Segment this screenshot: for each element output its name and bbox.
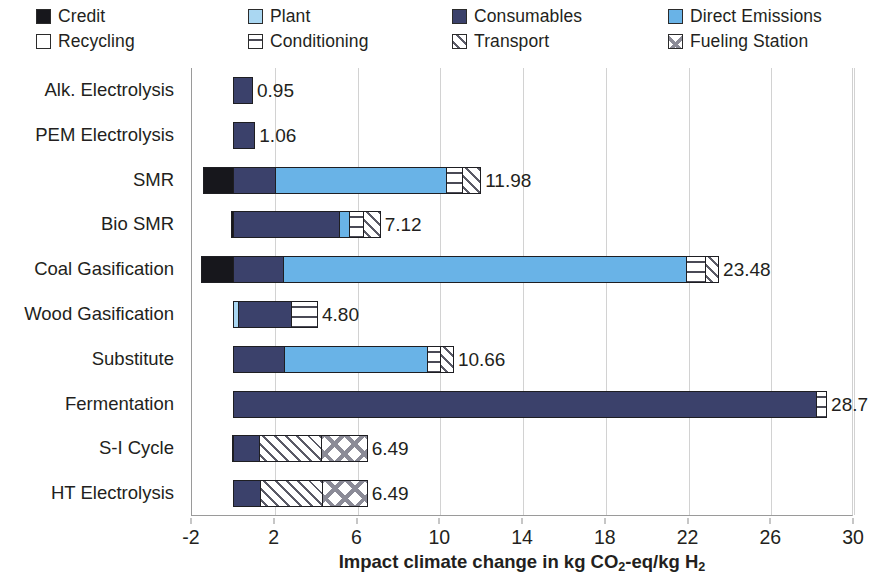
legend-label: Credit — [58, 8, 105, 26]
tick-mark — [273, 518, 274, 524]
tick-mark — [687, 518, 688, 524]
bar-segment-consumables[interactable] — [234, 78, 252, 103]
legend-item-recycling[interactable]: Recycling — [36, 33, 135, 51]
bar-segment-fueling-station[interactable] — [322, 436, 367, 461]
stacked-bar[interactable] — [233, 391, 827, 418]
x-tick-label: 2 — [268, 526, 279, 549]
bar-segment-conditioning[interactable] — [447, 168, 463, 193]
bar-value-label: 0.95 — [253, 77, 294, 104]
category-label: Alk. Electrolysis — [44, 68, 174, 113]
stacked-bar[interactable] — [233, 301, 318, 328]
bar-row: 6.49 — [192, 426, 852, 471]
stacked-bar[interactable] — [231, 211, 381, 238]
tick-mark — [853, 518, 854, 524]
bar-segment-conditioning[interactable] — [687, 257, 706, 282]
category-axis-labels: Alk. ElectrolysisPEM ElectrolysisSMRBio … — [0, 68, 183, 516]
stacked-bar[interactable] — [203, 167, 481, 194]
swatch-fueling-icon — [668, 34, 683, 49]
stacked-bar[interactable] — [233, 122, 255, 149]
category-label: SMR — [133, 158, 174, 203]
category-label: Substitute — [92, 337, 174, 382]
swatch-consumables-icon — [452, 9, 467, 24]
bar-segment-direct-emissions[interactable] — [340, 212, 350, 237]
bar-segment-consumables[interactable] — [234, 123, 254, 148]
x-axis-title-sub-h2: 2 — [698, 560, 705, 574]
bar-segment-transport[interactable] — [441, 347, 453, 372]
legend-label: Consumables — [474, 8, 582, 26]
tick-mark — [356, 518, 357, 524]
swatch-plant-icon — [248, 9, 263, 24]
bar-value-label: 28.7 — [827, 391, 868, 418]
bar-segment-direct-emissions[interactable] — [284, 257, 687, 282]
bar-segment-credit[interactable] — [204, 168, 234, 193]
bar-segment-conditioning[interactable] — [350, 212, 364, 237]
legend-item-plant[interactable]: Plant — [248, 8, 310, 26]
bar-segment-consumables[interactable] — [239, 302, 292, 327]
bar-value-label: 6.49 — [368, 480, 409, 507]
category-label: S-I Cycle — [99, 426, 174, 471]
bar-value-label: 1.06 — [255, 122, 296, 149]
tick-mark — [439, 518, 440, 524]
bar-segment-transport[interactable] — [364, 212, 380, 237]
swatch-transport-icon — [452, 34, 467, 49]
bar-segment-consumables[interactable] — [234, 436, 259, 461]
tick-mark — [522, 518, 523, 524]
x-axis-title-mid: -eq/kg H — [625, 551, 698, 572]
x-tick-label: 18 — [594, 526, 616, 549]
stacked-bar[interactable] — [232, 435, 368, 462]
legend-item-transport[interactable]: Transport — [452, 33, 549, 51]
legend-label: Transport — [474, 33, 549, 51]
bar-segment-transport[interactable] — [261, 481, 323, 506]
bar-segment-transport[interactable] — [463, 168, 480, 193]
legend-item-direct-emissions[interactable]: Direct Emissions — [668, 8, 822, 26]
stacked-bar[interactable] — [201, 256, 719, 283]
bar-value-label: 7.12 — [381, 211, 422, 238]
bar-segment-consumables[interactable] — [234, 212, 340, 237]
bar-row: 23.48 — [192, 247, 852, 292]
bar-segment-fueling-station[interactable] — [323, 481, 367, 506]
bar-row: 28.7 — [192, 382, 852, 427]
stacked-bar[interactable] — [233, 77, 253, 104]
bar-segment-consumables[interactable] — [234, 392, 816, 417]
category-label: Fermentation — [65, 382, 174, 427]
x-tick-label: 14 — [511, 526, 533, 549]
bar-segment-credit[interactable] — [202, 257, 234, 282]
x-axis-title-pre: Impact climate change in kg CO — [339, 551, 619, 572]
x-tick-label: 26 — [759, 526, 781, 549]
legend-item-consumables[interactable]: Consumables — [452, 8, 582, 26]
swatch-conditioning-icon — [248, 34, 263, 49]
bar-segment-direct-emissions[interactable] — [285, 347, 428, 372]
bar-segment-conditioning[interactable] — [292, 302, 317, 327]
gridline — [854, 68, 855, 515]
bar-segment-consumables[interactable] — [234, 481, 260, 506]
category-label: PEM Electrolysis — [35, 113, 174, 158]
bar-segment-consumables[interactable] — [234, 168, 275, 193]
bar-row: 11.98 — [192, 158, 852, 203]
legend-label: Recycling — [58, 33, 135, 51]
legend-item-credit[interactable]: Credit — [36, 8, 105, 26]
swatch-direct-icon — [668, 9, 683, 24]
legend-label: Conditioning — [270, 33, 369, 51]
bar-row: 7.12 — [192, 202, 852, 247]
bar-segment-conditioning[interactable] — [817, 392, 826, 417]
bar-value-label: 6.49 — [368, 435, 409, 462]
bar-segment-consumables[interactable] — [234, 347, 284, 372]
bar-row: 1.06 — [192, 113, 852, 158]
bar-segment-transport[interactable] — [706, 257, 718, 282]
x-axis-title: Impact climate change in kg CO2-eq/kg H2 — [191, 551, 853, 574]
bar-value-label: 11.98 — [481, 167, 531, 194]
tick-mark — [604, 518, 605, 524]
bar-segment-direct-emissions[interactable] — [276, 168, 447, 193]
stacked-bar[interactable] — [233, 480, 367, 507]
legend-item-fueling-station[interactable]: Fueling Station — [668, 33, 808, 51]
bar-segment-transport[interactable] — [260, 436, 322, 461]
stacked-bar[interactable] — [233, 346, 454, 373]
swatch-credit-icon — [36, 9, 51, 24]
plot-area: 0.951.0611.987.1223.484.8010.6628.76.496… — [191, 68, 853, 516]
bar-segment-consumables[interactable] — [234, 257, 284, 282]
x-tick-label: 30 — [842, 526, 864, 549]
bar-value-label: 10.66 — [454, 346, 506, 373]
legend-item-conditioning[interactable]: Conditioning — [248, 33, 369, 51]
bar-segment-conditioning[interactable] — [428, 347, 441, 372]
legend-label: Fueling Station — [690, 33, 808, 51]
